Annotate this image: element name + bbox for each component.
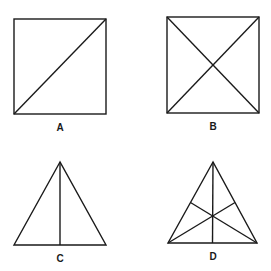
- label-b: B: [209, 121, 216, 132]
- label-c: C: [56, 253, 63, 264]
- label-d: D: [209, 251, 216, 262]
- panel-c: C: [14, 162, 106, 264]
- panel-d: D: [168, 162, 257, 262]
- geometry-figure: A B C D: [0, 0, 271, 271]
- panel-a: A: [14, 19, 106, 133]
- median-d-1: [213, 162, 214, 243]
- panel-b: B: [167, 17, 259, 132]
- label-a: A: [56, 122, 63, 133]
- diagonal-a: [14, 19, 106, 114]
